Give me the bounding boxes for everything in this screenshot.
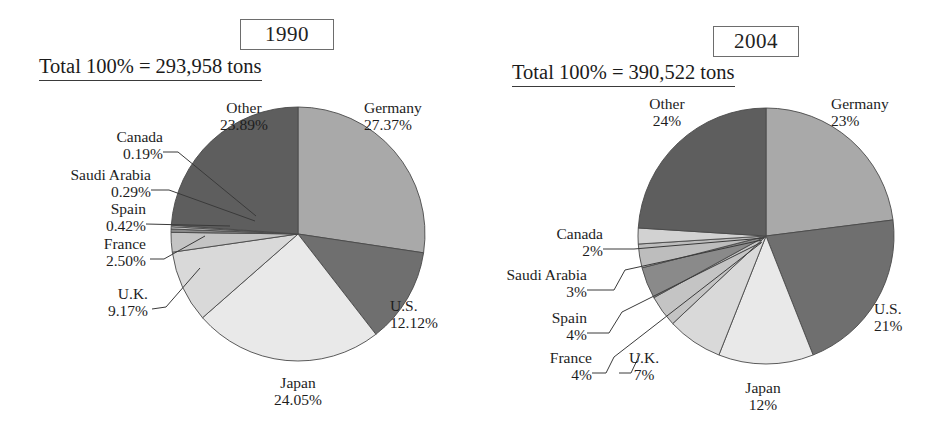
slice-label-saudi-arabia-1990: Saudi Arabia 0.29% (29, 166, 151, 200)
slice-label-saudi-arabia-2004: Saudi Arabia 3% (474, 266, 587, 300)
slice-label-other-1990: Other 23.89% (196, 99, 292, 133)
slice-label-spain-1990: Spain 0.42% (50, 200, 146, 234)
slice-label-france-2004: France 4% (498, 349, 592, 383)
chart-panel-2004: 2004 Total 100% = 390,522 tons Other 24%… (474, 0, 949, 427)
slice-label-uk-1990: U.K. 9.17% (56, 285, 148, 319)
two-pie-chart-figure: 1990 Total 100% = 293,958 tons Other 23.… (0, 0, 949, 427)
slice-label-canada-2004: Canada 2% (505, 225, 603, 259)
slice-label-us-2004: U.S. 21% (874, 300, 946, 334)
chart-panel-1990: 1990 Total 100% = 293,958 tons Other 23.… (0, 0, 475, 427)
slice-label-germany-1990: Germany 27.37% (364, 99, 470, 133)
slice-label-france-1990: France 2.50% (44, 235, 146, 269)
slice-label-uk-2004: U.K. 7% (613, 349, 675, 383)
slice-label-japan-2004: Japan 12% (718, 379, 808, 413)
slice-label-canada-1990: Canada 0.19% (63, 128, 163, 162)
slice-label-japan-1990: Japan 24.05% (250, 374, 346, 408)
slice-label-germany-2004: Germany 23% (831, 95, 937, 129)
slice-label-spain-2004: Spain 4% (494, 309, 587, 343)
slice-label-us-1990: U.S. 12.12% (390, 297, 472, 331)
slice-label-other-2004: Other 24% (619, 95, 715, 129)
